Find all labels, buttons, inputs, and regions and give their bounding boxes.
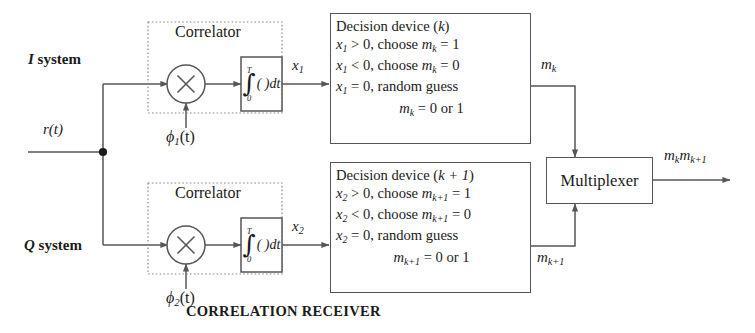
decision-k1-line-4: mk+1 = 0 or 1 xyxy=(336,249,527,270)
decision-k1-line-1: x2 > 0, choose mk+1 = 1 xyxy=(336,185,527,206)
multiplexer-label: Multiplexer xyxy=(561,171,639,191)
decision-device-k: Decision device (k) x1 > 0, choose mk = … xyxy=(330,13,531,144)
correlator-output-label-q: x2 xyxy=(292,219,304,237)
decision-device-k-text: Decision device (k) x1 > 0, choose mk = … xyxy=(336,18,527,121)
decision-k-line-2: x1 < 0, choose mk = 0 xyxy=(336,57,527,78)
decision-k-line-1: x1 > 0, choose mk = 1 xyxy=(336,36,527,57)
decision-k1-title: Decision device (k + 1) xyxy=(336,167,527,185)
junction-dot xyxy=(99,148,107,156)
branch-label-q-word: system xyxy=(39,237,82,253)
output-label: mkmk+1 xyxy=(664,148,707,166)
integrator-q: T ∫ 0 ( )dt xyxy=(241,218,282,272)
input-signal-label: r(t) xyxy=(43,122,63,138)
branch-label-i-word: system xyxy=(38,51,81,67)
multiplexer-block: Multiplexer xyxy=(546,157,653,204)
branch-label-q-var: Q xyxy=(24,237,35,253)
decision-k1-line-2: x2 < 0, choose mk+1 = 0 xyxy=(336,206,527,227)
wire-mk1-to-mux xyxy=(531,204,575,246)
carrier-label-i: ϕ1(t) xyxy=(166,129,195,148)
integrator-q-lower: 0 xyxy=(247,255,251,264)
correlator-output-label-i: x1 xyxy=(292,58,304,76)
decision-device-k1: Decision device (k + 1) x2 > 0, choose m… xyxy=(330,162,531,293)
diagram-caption: CORRELATION RECEIVER xyxy=(186,303,381,320)
branch-label-i: I system xyxy=(28,52,81,68)
decision-device-k1-text: Decision device (k + 1) x2 > 0, choose m… xyxy=(336,167,527,270)
integrator-i-sign: ∫ xyxy=(243,74,256,94)
correlator-title-i: Correlator xyxy=(175,24,241,41)
bit-label-mk: mk xyxy=(541,57,556,75)
decision-k-line-4: mk = 0 or 1 xyxy=(336,100,527,121)
correlator-title-q: Correlator xyxy=(175,185,241,202)
integrator-i-lower: 0 xyxy=(247,94,251,103)
integrator-i-arg: ( )dt xyxy=(257,76,281,92)
branch-label-i-var: I xyxy=(28,51,34,67)
integrator-q-sign: ∫ xyxy=(243,235,256,255)
wire-mk-to-mux xyxy=(531,86,575,157)
decision-k-line-3: x1 = 0, random guess xyxy=(336,78,527,99)
branch-label-q: Q system xyxy=(24,238,82,254)
decision-k1-line-3: x2 = 0, random guess xyxy=(336,227,527,248)
decision-k-title: Decision device (k) xyxy=(336,18,527,36)
correlation-receiver-diagram: I system r(t) Correlator ϕ1(t) T ∫ 0 ( )… xyxy=(0,0,755,333)
integrator-i: T ∫ 0 ( )dt xyxy=(241,57,282,111)
integrator-q-arg: ( )dt xyxy=(257,237,281,253)
bit-label-mk1: mk+1 xyxy=(537,250,564,268)
